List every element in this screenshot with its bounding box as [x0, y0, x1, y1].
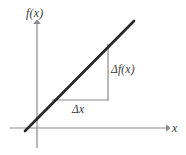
right-arrow-icon — [166, 124, 171, 132]
run-label: Δx — [72, 104, 84, 116]
y-axis-label: f(x) — [26, 7, 43, 19]
x-axis-label: x — [172, 122, 178, 134]
slope-diagram-figure: f(x) x Δf(x) Δx — [0, 0, 186, 155]
up-arrow-icon — [33, 20, 41, 25]
diagram-canvas — [0, 0, 186, 155]
rise-label: Δf(x) — [111, 64, 135, 76]
